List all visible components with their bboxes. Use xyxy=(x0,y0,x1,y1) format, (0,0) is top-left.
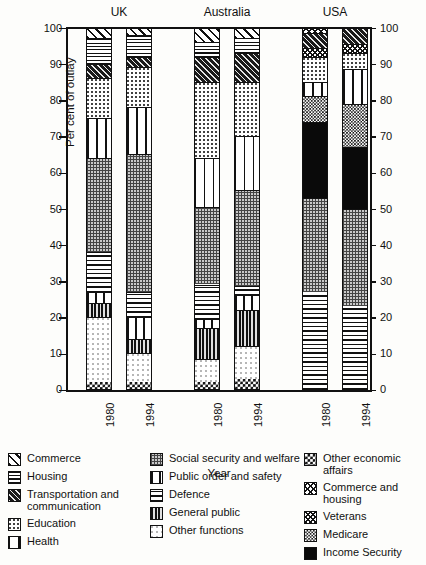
legend-label: Defence xyxy=(169,488,210,500)
segment-transportation-and-communication xyxy=(87,64,111,78)
segment-transportation-and-communication xyxy=(343,28,367,44)
segment-social-security-and-welfare xyxy=(195,207,219,285)
segment-commerce xyxy=(87,28,111,39)
segment-veterans xyxy=(343,44,367,53)
plot-area: 0010102020303040405050606070708080909010… xyxy=(66,27,372,392)
y-tick-right-30 xyxy=(370,281,376,282)
year-label-0: 1980 xyxy=(104,403,116,427)
segment-public-order-and-safety xyxy=(87,292,111,303)
legend-label: Income Security xyxy=(323,546,402,558)
segment-other-functions xyxy=(235,346,259,379)
y-tick-label-right-80: 80 xyxy=(380,95,408,106)
bar-usa-1980[interactable] xyxy=(302,29,328,391)
segment-commerce-and-housing xyxy=(303,28,327,33)
window-pane-swatch xyxy=(150,471,163,484)
segment-other-functions xyxy=(127,353,151,382)
y-tick-label-left-60: 60 xyxy=(34,167,62,178)
y-tick-label-left-70: 70 xyxy=(34,131,62,142)
x-axis-bottom xyxy=(66,390,372,392)
legend-column-1: CommerceHousingTransportation and commun… xyxy=(8,452,146,553)
y-tick-right-70 xyxy=(370,136,376,137)
y-tick-label-right-10: 10 xyxy=(380,348,408,359)
legend-item-other-functions[interactable]: Other functions xyxy=(150,524,300,538)
segment-transportation-and-communication xyxy=(127,57,151,68)
y-tick-right-20 xyxy=(370,317,376,318)
segment-public-order-and-safety xyxy=(195,319,219,328)
segment-housing xyxy=(87,38,111,63)
segment-social-security-and-welfare xyxy=(127,154,151,291)
segment-transportation-and-communication xyxy=(303,33,327,47)
segment-income-security xyxy=(343,147,367,209)
legend-item-health[interactable]: Health xyxy=(8,535,146,549)
y-tick-label-left-10: 10 xyxy=(34,348,62,359)
group-label-uk: UK xyxy=(74,5,164,19)
segment-education xyxy=(235,82,259,136)
bar-uk-1994[interactable] xyxy=(126,29,152,391)
segment-health xyxy=(87,118,111,158)
y-tick-right-60 xyxy=(370,173,376,174)
segment-medicare xyxy=(303,96,327,121)
segment-other-functions xyxy=(87,317,111,382)
segment-commerce xyxy=(127,28,151,35)
segment-social-security-and-welfare xyxy=(343,209,367,307)
legend-item-commerce[interactable]: Commerce xyxy=(8,452,146,466)
legend-item-public-order-and-safety[interactable]: Public order and safety xyxy=(150,470,300,484)
legend-item-social-security-and-welfare[interactable]: Social security and welfare xyxy=(150,452,300,466)
segment-education xyxy=(127,67,151,107)
legend-label: Other economic affairs xyxy=(323,452,426,477)
segment-education xyxy=(87,78,111,118)
segment-other-economic-affairs xyxy=(87,382,111,389)
horizontal-lines-swatch xyxy=(150,489,163,502)
legend-item-transportation-and-communication[interactable]: Transportation and communication xyxy=(8,488,146,513)
legend-label: Health xyxy=(27,535,59,547)
segment-other-economic-affairs xyxy=(195,382,219,389)
segment-social-security-and-welfare xyxy=(87,158,111,252)
legend-item-housing[interactable]: Housing xyxy=(8,470,146,484)
legend-item-defence[interactable]: Defence xyxy=(150,488,300,502)
legend-item-veterans[interactable]: Veterans xyxy=(304,510,426,524)
legend-item-commerce-and-housing[interactable]: Commerce and housing xyxy=(304,481,426,506)
bar-uk-1980[interactable] xyxy=(86,29,112,391)
segment-defence xyxy=(343,306,367,389)
y-tick-label-right-50: 50 xyxy=(380,204,408,215)
bar-australia-1980[interactable] xyxy=(194,29,220,391)
legend-item-income-security[interactable]: Income Security xyxy=(304,546,426,560)
y-tick-label-left-0: 0 xyxy=(34,384,62,395)
y-tick-label-right-40: 40 xyxy=(380,240,408,251)
legend-column-2: Social security and welfarePublic order … xyxy=(150,452,300,542)
segment-defence xyxy=(235,286,259,295)
segment-general-public xyxy=(195,328,219,359)
grey-grid-swatch xyxy=(150,453,163,466)
y-tick-label-left-20: 20 xyxy=(34,312,62,323)
y-tick-label-left-50: 50 xyxy=(34,204,62,215)
legend-label: Medicare xyxy=(323,528,368,540)
segment-education xyxy=(343,53,367,69)
legend-label: Commerce and housing xyxy=(323,481,426,506)
fine-checker-swatch xyxy=(304,529,317,542)
y-tick-label-left-80: 80 xyxy=(34,95,62,106)
legend-label: Other functions xyxy=(169,524,244,536)
segment-health xyxy=(127,107,151,154)
segment-commerce xyxy=(195,28,219,42)
y-tick-right-40 xyxy=(370,245,376,246)
thick-vertical-swatch xyxy=(150,507,163,520)
checkerboard-swatch xyxy=(304,453,317,466)
legend-label: Transportation and communication xyxy=(27,488,146,513)
y-tick-label-left-40: 40 xyxy=(34,240,62,251)
year-label-3: 1994 xyxy=(252,403,264,427)
y-tick-right-50 xyxy=(370,209,376,210)
bar-australia-1994[interactable] xyxy=(234,29,260,391)
bar-usa-1994[interactable] xyxy=(342,29,368,391)
segment-income-security xyxy=(303,122,327,198)
legend-item-general-public[interactable]: General public xyxy=(150,506,300,520)
segment-general-public xyxy=(127,339,151,353)
legend-item-education[interactable]: Education xyxy=(8,517,146,531)
legend-item-medicare[interactable]: Medicare xyxy=(304,528,426,542)
vertical-bars-swatch xyxy=(8,536,21,549)
y-tick-right-0 xyxy=(370,390,376,391)
group-label-usa: USA xyxy=(290,5,380,19)
segment-commerce xyxy=(235,28,259,39)
y-axis-title: Per cent of outlay xyxy=(64,58,76,148)
legend-label: Commerce xyxy=(27,452,81,464)
legend-item-other-economic-affairs[interactable]: Other economic affairs xyxy=(304,452,426,477)
